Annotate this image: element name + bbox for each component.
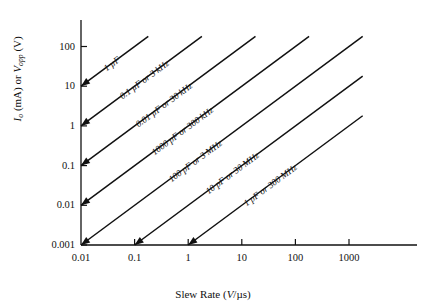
series-arrowhead: [81, 197, 90, 205]
x-tick-label: 100: [288, 253, 304, 264]
series-arrowhead: [135, 237, 144, 245]
x-tick-label: 10: [237, 253, 248, 264]
y-tick-label: 10: [20, 81, 75, 92]
y-tick-label: 100: [20, 41, 75, 52]
series-arrowhead: [81, 237, 90, 245]
x-tick-label: 0.01: [72, 253, 90, 264]
x-axis-title: Slew Rate (V/µs): [0, 288, 426, 300]
chart-figure: 1001010.10.010.0010.010.11101001000 1 µF…: [0, 0, 426, 304]
x-tick-label: 1: [186, 253, 191, 264]
x-tick-label: 1000: [339, 253, 360, 264]
series-arrowhead: [81, 118, 90, 126]
x-axis-unit-symbol: V: [227, 288, 234, 300]
y-tick-label: 0.001: [20, 240, 75, 251]
series-arrowhead: [81, 158, 90, 166]
series-lines: [81, 36, 363, 245]
x-tick-label: 0.1: [128, 253, 141, 264]
series-arrowhead: [188, 237, 197, 245]
series-arrowhead: [81, 78, 90, 86]
y-tick-label: 0.01: [20, 200, 75, 211]
y-tick-label: 1: [20, 121, 75, 132]
series-line: [81, 36, 363, 245]
axes: [81, 20, 417, 245]
y-axis-title: Io (mA) or Vopp (V): [11, 0, 25, 159]
y-tick-label: 0.1: [20, 160, 75, 171]
